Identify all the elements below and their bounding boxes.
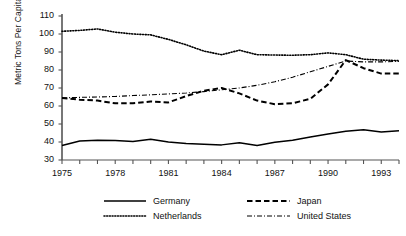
- y-axis-tick-label: 70: [0, 83, 54, 92]
- y-axis-tick-label: 60: [0, 101, 54, 110]
- y-axis-tick-label: 100: [0, 29, 54, 38]
- series-line-netherlands: [62, 29, 399, 61]
- series-line-germany: [62, 130, 399, 146]
- x-axis-tick-label: 1993: [361, 169, 401, 178]
- plot-area: [0, 0, 406, 236]
- y-axis-tick-label: 110: [0, 11, 54, 20]
- x-axis-tick-label: 1984: [202, 169, 242, 178]
- series-lines: [62, 29, 399, 146]
- legend-label-germany: Germany: [153, 196, 190, 206]
- x-axis-tick-label: 1981: [148, 169, 188, 178]
- legend-label-japan: Japan: [297, 196, 322, 206]
- x-axis-tick-label: 1978: [95, 169, 135, 178]
- series-line-united-states: [62, 61, 399, 98]
- x-axis-tick-label: 1975: [42, 169, 82, 178]
- y-axis-tick-label: 30: [0, 155, 54, 164]
- series-line-japan: [62, 60, 399, 104]
- y-axis-tick-label: 50: [0, 119, 54, 128]
- legend-label-netherlands: Netherlands: [153, 211, 202, 221]
- line-chart-figure: Metric Tons Per Capita 30405060708090100…: [0, 0, 406, 236]
- x-axis-tick-label: 1990: [308, 169, 348, 178]
- y-axis-tick-label: 90: [0, 47, 54, 56]
- legend-label-united-states: United States: [297, 211, 351, 221]
- x-axis-tick-label: 1987: [255, 169, 295, 178]
- y-axis-tick-label: 80: [0, 65, 54, 74]
- y-axis-tick-label: 40: [0, 137, 54, 146]
